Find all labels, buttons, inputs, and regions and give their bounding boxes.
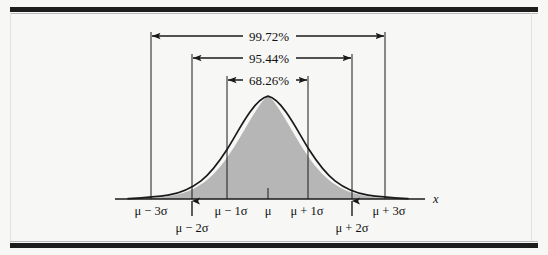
normal-distribution-figure: 99.72% 95.44% 68.26% x μ − 3σ μ − 2σ μ −… <box>0 0 548 255</box>
bracket-label-9544: 95.44% <box>249 51 289 66</box>
figure-page: 99.72% 95.44% 68.26% x μ − 3σ μ − 2σ μ −… <box>0 0 548 255</box>
tick-label-plus-3-sigma: μ + 3σ <box>373 204 406 218</box>
bracket-label-9972: 99.72% <box>249 29 289 44</box>
tick-label-plus-2-sigma: μ + 2σ <box>336 221 369 235</box>
tick-label-minus-2-sigma: μ − 2σ <box>176 221 209 235</box>
tick-label-mu: μ <box>265 204 272 218</box>
tick-label-minus-3-sigma: μ − 3σ <box>135 204 168 218</box>
tick-label-minus-1-sigma: μ − 1σ <box>215 204 248 218</box>
bracket-label-6826: 68.26% <box>249 73 289 88</box>
x-axis-label: x <box>432 192 439 206</box>
tick-label-plus-1-sigma: μ + 1σ <box>291 204 324 218</box>
normal-curve-area <box>146 96 390 199</box>
